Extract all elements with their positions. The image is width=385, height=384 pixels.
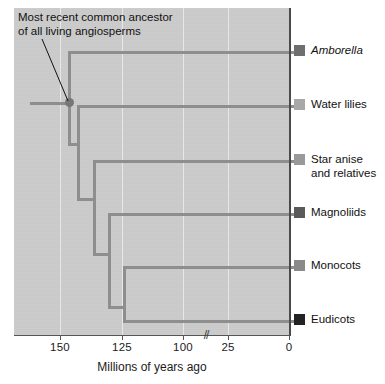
legend-label-star-anise-line1: Star anise bbox=[311, 153, 363, 165]
legend-swatch-magnoliids bbox=[294, 207, 305, 218]
legend-item-magnoliids: Magnoliids bbox=[294, 206, 366, 220]
figure-root: Most recent common ancestor of all livin… bbox=[0, 0, 385, 384]
x-axis-line bbox=[14, 335, 290, 336]
branch-node1-to-node2 bbox=[68, 143, 80, 146]
tick-label-0: 0 bbox=[286, 341, 293, 353]
tick-label-150: 150 bbox=[50, 341, 70, 353]
tick-label-100: 100 bbox=[173, 341, 193, 353]
plot-texture bbox=[14, 8, 290, 335]
annotation-text: Most recent common ancestor of all livin… bbox=[18, 10, 208, 39]
branch-node2-to-node3 bbox=[77, 198, 96, 201]
branch-tip-monocots bbox=[123, 266, 304, 269]
branch-tip-star-anise bbox=[93, 160, 304, 163]
tick-125 bbox=[122, 335, 123, 340]
legend-swatch-star-anise bbox=[294, 154, 305, 165]
tick-150 bbox=[60, 335, 61, 340]
y-axis-line-present-day bbox=[289, 8, 291, 336]
legend-label-magnoliids: Magnoliids bbox=[311, 206, 366, 220]
tick-25 bbox=[228, 335, 229, 340]
branch-tip-eudicots bbox=[123, 320, 304, 323]
tick-100 bbox=[183, 335, 184, 340]
branch-node2-vertical bbox=[77, 105, 80, 199]
legend-swatch-monocots bbox=[294, 260, 305, 271]
legend-label-star-anise: Star aniseand relatives bbox=[311, 153, 376, 181]
branch-node3-vertical bbox=[93, 160, 96, 254]
branch-node4-vertical bbox=[108, 213, 111, 307]
legend-item-eudicots: Eudicots bbox=[294, 313, 355, 327]
legend-swatch-amborella bbox=[294, 45, 305, 56]
branch-node4-to-node5 bbox=[108, 306, 126, 309]
gridline-100 bbox=[183, 8, 184, 335]
plot-area bbox=[14, 8, 290, 335]
legend-label-amborella: Amborella bbox=[311, 44, 363, 58]
gridline-150 bbox=[60, 8, 61, 335]
mrca-node-dot bbox=[65, 98, 74, 107]
legend-item-star-anise: Star aniseand relatives bbox=[294, 153, 376, 181]
branch-node3-to-node4 bbox=[93, 253, 111, 256]
annotation-line-1: Most recent common ancestor bbox=[18, 10, 208, 24]
legend-swatch-eudicots bbox=[294, 314, 305, 325]
gridline-25 bbox=[228, 8, 229, 335]
branch-tip-water-lilies bbox=[77, 105, 304, 108]
legend-label-eudicots: Eudicots bbox=[311, 313, 355, 327]
x-axis-title: Millions of years ago bbox=[97, 360, 206, 374]
tick-label-25: 25 bbox=[221, 341, 234, 353]
annotation-line-2: of all living angiosperms bbox=[18, 24, 208, 38]
legend-label-water-lilies: Water lilies bbox=[311, 98, 367, 112]
legend-item-water-lilies: Water lilies bbox=[294, 98, 367, 112]
legend-label-monocots: Monocots bbox=[311, 259, 361, 273]
branch-tip-amborella bbox=[68, 51, 304, 54]
tick-0 bbox=[289, 335, 290, 340]
legend-item-amborella: Amborella bbox=[294, 44, 363, 58]
tick-label-125: 125 bbox=[112, 341, 132, 353]
legend-swatch-water-lilies bbox=[294, 99, 305, 110]
legend-item-monocots: Monocots bbox=[294, 259, 361, 273]
axis-break-marker: // bbox=[204, 328, 209, 342]
branch-tip-magnoliids bbox=[108, 213, 304, 216]
branch-node5-vertical bbox=[123, 266, 126, 321]
legend-label-star-anise-line2: and relatives bbox=[311, 167, 376, 179]
